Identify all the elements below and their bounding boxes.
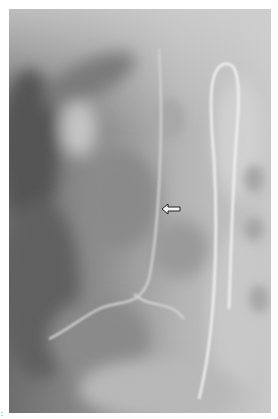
xray-image <box>9 9 271 413</box>
xray-rendering <box>9 9 271 413</box>
arrow-left-icon <box>161 203 181 215</box>
corner-mark: : <box>1 410 3 417</box>
